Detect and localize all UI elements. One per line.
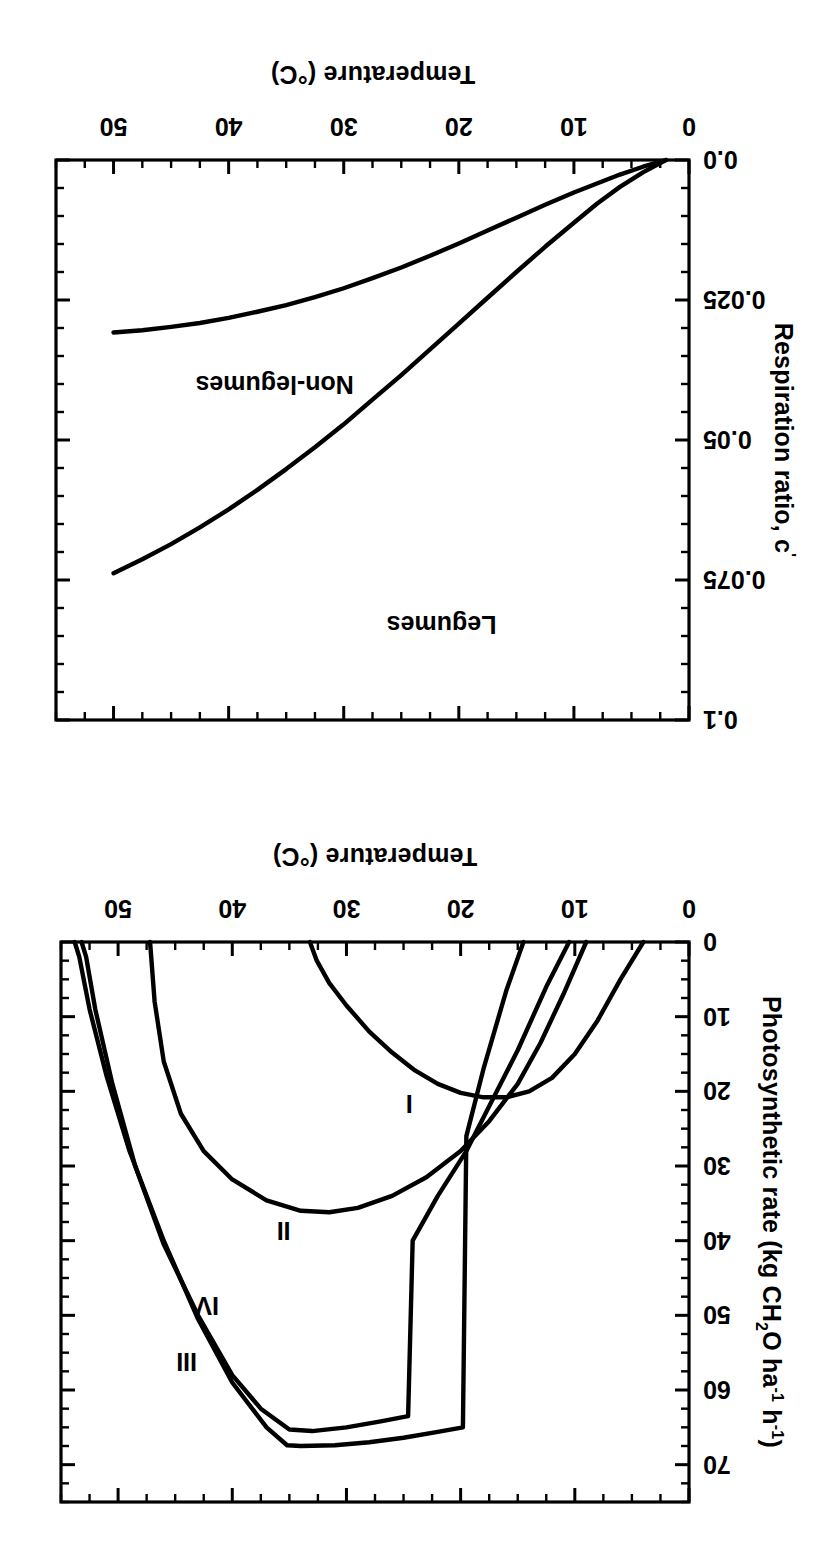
svg-text:Photosynthetic rate (kg CH2O h: Photosynthetic rate (kg CH2O ha-1 h-1) — [753, 996, 786, 1448]
x-tick-label: 50 — [100, 113, 128, 141]
ylabel-sup-1: -1 — [769, 1388, 786, 1403]
x-tick-label: 10 — [560, 113, 588, 141]
y-tick-label: 0.05 — [703, 426, 752, 454]
series-i — [310, 942, 643, 1097]
ylabel-sup-2: -1 — [769, 1425, 786, 1440]
figure-rotation-wrapper: 01020304050 010203040506070 IIIIIIIV Tem… — [0, 0, 821, 1542]
curve-label-iii: III — [176, 1348, 197, 1376]
y-tick-label: 70 — [703, 1451, 731, 1479]
respiration-svg: 01020304050 0.00.0250.050.0750.1 Legumes… — [0, 0, 821, 780]
y-tick-label: 30 — [703, 1152, 731, 1180]
curve-label-non-legumes: Non-legumes — [195, 371, 353, 399]
x-tick-label: 20 — [447, 895, 475, 923]
respiration-x-axis-title: Temperature (°C) — [271, 61, 475, 89]
y-tick-label: 20 — [703, 1077, 731, 1105]
y-tick-label: 50 — [703, 1301, 731, 1329]
curve-label-legumes: Legumes — [387, 611, 497, 639]
y-tick-label: 60 — [703, 1376, 731, 1404]
y-tick-label: 0.075 — [703, 566, 766, 594]
x-tick-label: 0 — [682, 895, 696, 923]
svg-text:Respiration ratio, c': Respiration ratio, c' — [770, 323, 798, 557]
photosynthesis-curve-labels: IIIIIIIV — [176, 1090, 413, 1376]
y-tick-label: 40 — [703, 1227, 731, 1255]
respiration-ratio-panel: 01020304050 0.00.0250.050.0750.1 Legumes… — [0, 0, 821, 780]
y-tick-label: 0.0 — [703, 146, 738, 174]
respiration-ticks — [56, 160, 689, 720]
photosynthesis-x-tick-labels: 01020304050 — [104, 895, 696, 923]
respiration-y-axis-title: Respiration ratio, c' — [770, 323, 798, 557]
ylabel-mid: O ha — [758, 1331, 786, 1388]
y-tick-label: 0.1 — [703, 706, 738, 734]
rr-ylabel-prime: ' — [781, 553, 798, 557]
photosynthesis-x-axis-title: Temperature (°C) — [273, 843, 477, 871]
x-tick-label: 30 — [333, 895, 361, 923]
curve-label-iv: IV — [195, 1292, 219, 1320]
x-tick-label: 50 — [104, 895, 132, 923]
ylabel-tail: ) — [758, 1439, 786, 1448]
photosynthesis-y-axis-title: Photosynthetic rate (kg CH2O ha-1 h-1) — [753, 996, 786, 1448]
respiration-series-labels: LegumesNon-legumes — [195, 371, 496, 640]
series-non-legumes — [114, 160, 666, 332]
curve-label-ii: II — [277, 1217, 291, 1245]
ylabel-lead: Photosynthetic rate (kg CH — [758, 996, 786, 1322]
photosynthesis-svg: 01020304050 010203040506070 IIIIIIIV Tem… — [0, 780, 821, 1542]
ylabel-sub-2: 2 — [753, 1322, 770, 1331]
x-tick-label: 30 — [330, 113, 358, 141]
series-ii — [150, 942, 586, 1212]
photosynthesis-panel: 01020304050 010203040506070 IIIIIIIV Tem… — [0, 780, 821, 1542]
y-tick-label: 10 — [703, 1003, 731, 1031]
x-tick-label: 0 — [682, 113, 696, 141]
x-tick-label: 10 — [561, 895, 589, 923]
ylabel-mid-2: h — [758, 1402, 786, 1425]
y-tick-label: 0 — [703, 928, 717, 956]
respiration-plot-frame — [56, 160, 689, 720]
respiration-curves — [114, 160, 666, 573]
series-iii — [75, 942, 524, 1446]
respiration-y-tick-labels: 0.00.0250.050.0750.1 — [703, 146, 766, 734]
x-tick-label: 20 — [445, 113, 473, 141]
curve-label-i: I — [406, 1090, 413, 1118]
x-tick-label: 40 — [215, 113, 243, 141]
x-tick-label: 40 — [218, 895, 246, 923]
photosynthesis-curves — [75, 942, 644, 1446]
series-legumes — [114, 160, 666, 573]
photosynthesis-y-tick-labels: 010203040506070 — [703, 928, 731, 1479]
rr-ylabel-lead: Respiration ratio, c — [770, 323, 798, 553]
y-tick-label: 0.025 — [703, 286, 766, 314]
respiration-x-tick-labels: 01020304050 — [100, 113, 696, 141]
